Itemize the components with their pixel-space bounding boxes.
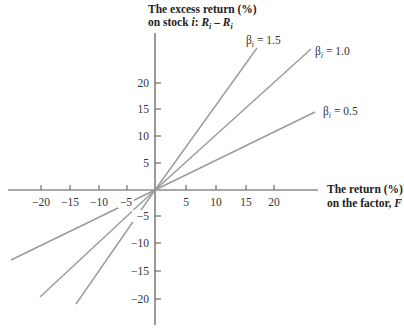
beta-label-1.5: βi = 1.5 <box>246 34 281 49</box>
factor-beta-chart: −20 −15 −10 −5 5 10 15 20 20 15 10 5 −5 … <box>0 0 404 330</box>
y-tick-labels: 20 15 10 5 −5 −10 −15 −20 <box>131 77 149 305</box>
y-tick-label: −10 <box>131 237 149 249</box>
y-tick-label: 10 <box>138 130 150 142</box>
y-tick-label: 5 <box>143 157 149 169</box>
y-tick-label: 15 <box>138 103 150 115</box>
x-tick-label: −20 <box>32 196 50 208</box>
y-tick-label: −20 <box>131 293 149 305</box>
x-axis-title-line2: on the factor, F <box>327 197 402 209</box>
y-ticks <box>155 83 161 299</box>
x-axis-title: The return (%) on the factor, F <box>327 183 403 209</box>
beta-label-0.5: βi = 0.5 <box>323 105 358 120</box>
x-axis-title-line1: The return (%) <box>327 183 403 196</box>
x-tick-label: 15 <box>240 196 252 208</box>
y-tick-label: −5 <box>137 210 149 222</box>
x-tick-label: −10 <box>90 196 108 208</box>
y-axis-title-line2: on stock i: Ri – Ri <box>148 16 233 31</box>
beta-label-1.0: βi = 1.0 <box>315 45 350 60</box>
x-tick-label: −5 <box>120 196 132 208</box>
line-beta-0.5 <box>155 112 315 190</box>
x-tick-label: −15 <box>61 196 79 208</box>
x-tick-labels: −20 −15 −10 −5 5 10 15 20 <box>32 196 280 208</box>
x-tick-label: 20 <box>268 196 280 208</box>
line-beta-1.5 <box>155 48 257 190</box>
y-tick-label: −15 <box>131 265 149 277</box>
y-tick-label: 20 <box>138 77 150 89</box>
x-tick-label: 10 <box>210 196 222 208</box>
x-tick-label: 5 <box>183 196 189 208</box>
line-beta-1.0 <box>155 49 311 190</box>
y-axis-title-line1: The excess return (%) <box>148 3 257 16</box>
y-axis-title: The excess return (%) on stock i: Ri – R… <box>148 3 257 31</box>
